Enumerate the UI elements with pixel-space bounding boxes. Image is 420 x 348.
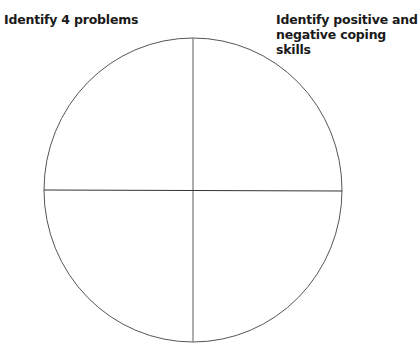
horizontal-divider [44, 190, 342, 191]
quadrant-circle-diagram [0, 0, 420, 348]
